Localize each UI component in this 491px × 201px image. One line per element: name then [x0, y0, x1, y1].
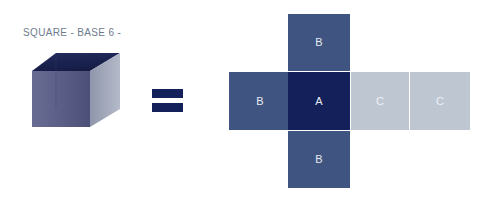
net-face-b-bottom: B	[288, 131, 350, 188]
net-face-label: B	[256, 96, 264, 107]
equals-bar-bottom	[152, 103, 183, 112]
net-face-c-outer: C	[410, 72, 470, 130]
net-face-b-left: B	[229, 72, 291, 130]
net-face-c-inner: C	[351, 72, 409, 130]
net-face-label: C	[376, 96, 384, 107]
net-face-b-top: B	[288, 14, 350, 71]
cube-net: B B A C C B	[229, 14, 473, 188]
figure-canvas: SQUARE - BASE 6 -	[0, 0, 491, 201]
net-face-label: B	[315, 154, 323, 165]
net-face-label: C	[436, 96, 444, 107]
net-face-label: B	[315, 37, 323, 48]
net-face-label: A	[315, 96, 323, 107]
net-face-a-center: A	[288, 72, 350, 130]
page-title: SQUARE - BASE 6 -	[23, 27, 121, 38]
equals-bar-top	[152, 89, 183, 98]
equals-sign	[152, 89, 183, 112]
cube-front-face	[32, 71, 90, 127]
cube-illustration	[30, 51, 122, 129]
cube-icon	[30, 51, 122, 129]
